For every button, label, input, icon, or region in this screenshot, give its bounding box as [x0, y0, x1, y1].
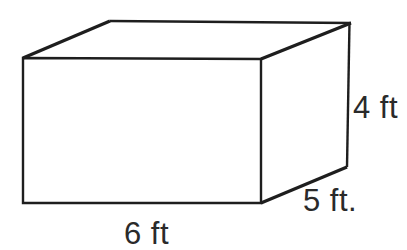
- prism-top-right-edge: [261, 23, 351, 59]
- prism-top-back-edge: [110, 21, 351, 23]
- height-dimension-label: 4 ft: [353, 90, 398, 125]
- prism-front-face: [23, 58, 261, 203]
- prism-diagram: 4 ft 5 ft. 6 ft: [0, 0, 407, 250]
- prism-figure: 4 ft 5 ft. 6 ft: [0, 0, 407, 250]
- depth-dimension-label: 5 ft.: [303, 183, 357, 218]
- prism-top-left-edge: [23, 21, 110, 58]
- prism-right-vertical-edge: [347, 22, 350, 167]
- width-dimension-label: 6 ft: [124, 216, 169, 250]
